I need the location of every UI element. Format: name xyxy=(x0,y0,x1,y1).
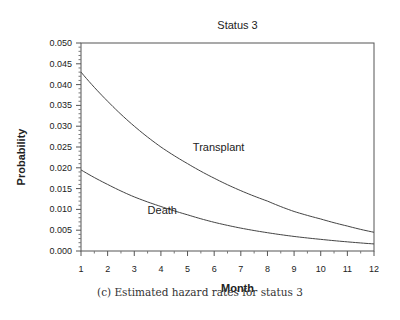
y-tick-label: 0.025 xyxy=(49,142,72,152)
figure-caption: (c) Estimated hazard rates for status 3 xyxy=(0,286,400,298)
x-tick-label: 4 xyxy=(158,264,163,274)
y-tick-label: 0.000 xyxy=(49,246,72,256)
x-tick-label: 2 xyxy=(105,264,110,274)
hazard-rate-chart: 0.0000.0050.0100.0150.0200.0250.0300.035… xyxy=(0,0,400,320)
x-tick-label: 8 xyxy=(265,264,270,274)
chart-title: Status 3 xyxy=(217,19,257,31)
y-tick-label: 0.030 xyxy=(49,121,72,131)
x-tick-label: 7 xyxy=(238,264,243,274)
x-tick-label: 9 xyxy=(292,264,297,274)
x-tick-label: 11 xyxy=(343,264,352,274)
y-tick-label: 0.005 xyxy=(49,225,72,235)
y-tick-label: 0.040 xyxy=(49,80,72,90)
x-tick-label: 6 xyxy=(212,264,217,274)
y-tick-label: 0.010 xyxy=(49,204,72,214)
x-tick-label: 12 xyxy=(369,264,379,274)
x-tick-label: 1 xyxy=(78,264,83,274)
x-tick-label: 3 xyxy=(132,264,137,274)
series-label-death: Death xyxy=(148,204,177,216)
y-tick-label: 0.050 xyxy=(49,38,72,48)
series-label-transplant: Transplant xyxy=(193,141,245,153)
y-tick-label: 0.015 xyxy=(49,184,72,194)
y-axis-title: Probability xyxy=(15,128,27,186)
x-tick-label: 5 xyxy=(185,264,190,274)
y-tick-label: 0.020 xyxy=(49,163,72,173)
y-tick-label: 0.035 xyxy=(49,100,72,110)
series-line-death xyxy=(81,170,374,244)
y-tick-label: 0.045 xyxy=(49,59,72,69)
x-tick-label: 10 xyxy=(316,264,326,274)
